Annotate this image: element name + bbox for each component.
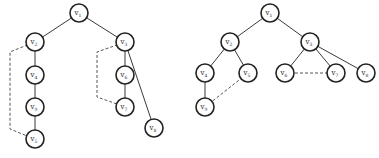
- node-v3: v3: [301, 33, 319, 51]
- right-tree-edges: [205, 13, 366, 107]
- right-tree-diagram: v1v2v3v4v5v9v6v7v8: [196, 4, 375, 116]
- node-v3: v3: [116, 33, 134, 51]
- node-v8: v8: [357, 64, 375, 82]
- left-tree-nodes: v1v2v4v9v5v3v6v7v8: [26, 4, 163, 148]
- node-v9: v9: [26, 98, 44, 116]
- node-v2: v2: [221, 33, 239, 51]
- node-v1: v1: [70, 4, 88, 22]
- node-v7: v7: [116, 98, 134, 116]
- node-v7: v7: [327, 64, 345, 82]
- node-v4: v4: [26, 66, 44, 84]
- tree-diagrams: v1v2v4v9v5v3v6v7v8 v1v2v3v4v5v9v6v7v8: [0, 0, 379, 158]
- node-v6: v6: [116, 66, 134, 84]
- edge-v2-v5-dashed: [10, 45, 28, 137]
- edge-v3-v7-dashed: [97, 45, 118, 105]
- node-v9: v9: [196, 98, 214, 116]
- right-tree-nodes: v1v2v3v4v5v9v6v7v8: [196, 4, 375, 116]
- node-v5: v5: [239, 64, 257, 82]
- node-v2: v2: [26, 33, 44, 51]
- node-v6: v6: [276, 64, 294, 82]
- left-tree-diagram: v1v2v4v9v5v3v6v7v8: [10, 4, 163, 148]
- node-v4: v4: [196, 64, 214, 82]
- node-v1: v1: [261, 4, 279, 22]
- node-v8: v8: [145, 119, 163, 137]
- node-v5: v5: [26, 130, 44, 148]
